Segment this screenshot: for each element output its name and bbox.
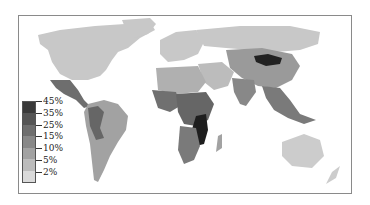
- region-russia: [196, 26, 320, 52]
- legend-band-1: [23, 102, 35, 113]
- legend-tick: [36, 101, 42, 102]
- legend-label: 45%: [43, 97, 63, 106]
- legend-band-3: [23, 125, 35, 136]
- legend-tick: [36, 160, 42, 161]
- region-south-africa: [178, 126, 200, 164]
- region-southeast-asia: [262, 86, 316, 124]
- region-australia: [282, 134, 324, 168]
- legend-label: 5%: [43, 156, 57, 165]
- legend-label: 35%: [43, 109, 63, 118]
- legend-tick: [36, 136, 42, 137]
- legend-label: 15%: [43, 132, 63, 141]
- region-europe: [160, 30, 204, 62]
- legend-band-5: [23, 148, 35, 159]
- region-new-zealand: [326, 166, 340, 184]
- legend-label: 2%: [43, 168, 57, 177]
- legend-scale: [22, 101, 36, 183]
- region-middle-east: [198, 62, 234, 90]
- legend-tick: [36, 172, 42, 173]
- legend-band-6: [23, 159, 35, 170]
- region-india: [232, 78, 256, 106]
- legend-band-2: [23, 113, 35, 124]
- legend-tick: [36, 148, 42, 149]
- legend-band-4: [23, 136, 35, 147]
- region-north-africa: [156, 66, 206, 94]
- region-west-africa: [152, 90, 180, 112]
- legend-band-7: [23, 171, 35, 182]
- legend-label: 25%: [43, 121, 63, 130]
- legend-label: 10%: [43, 144, 63, 153]
- region-madagascar: [216, 134, 222, 152]
- legend-tick: [36, 125, 42, 126]
- legend-tick: [36, 113, 42, 114]
